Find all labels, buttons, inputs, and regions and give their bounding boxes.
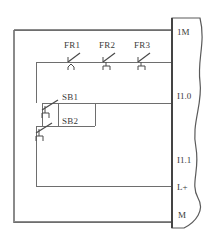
schematic-canvas: 1M I1.0 I1.1 L+ M FR1 FR2 FR3 SB1 SB2: [0, 0, 224, 241]
terminal-label-Lplus: L+: [177, 182, 188, 192]
terminal-label-I11: I1.1: [177, 155, 191, 165]
terminal-label-I10: I1.0: [177, 91, 192, 101]
plc-input-module: [172, 18, 202, 228]
label-FR3: FR3: [134, 40, 150, 50]
label-FR1: FR1: [64, 40, 80, 50]
wire-network: [14, 30, 172, 222]
plc-wiring-diagram: 1M I1.0 I1.1 L+ M FR1 FR2 FR3 SB1 SB2: [0, 0, 224, 241]
label-SB2: SB2: [62, 116, 78, 126]
terminal-label-M: M: [178, 210, 186, 220]
label-FR2: FR2: [99, 40, 115, 50]
label-SB1: SB1: [62, 92, 78, 102]
terminal-label-1M: 1M: [177, 27, 190, 37]
